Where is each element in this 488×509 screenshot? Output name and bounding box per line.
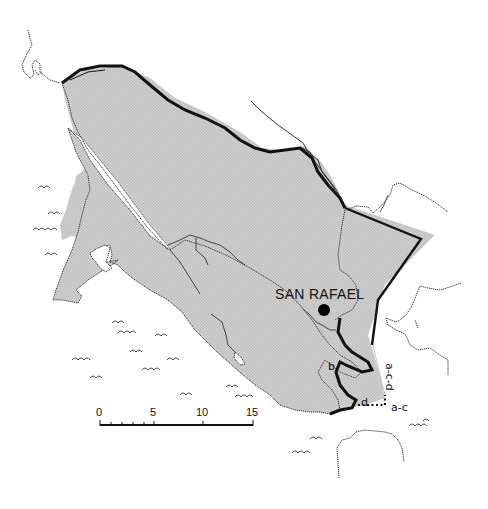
scale-label-15: 15 xyxy=(246,406,258,418)
sonoma-creek xyxy=(380,195,388,212)
map-canvas: SAN RAFAEL b d a-c-d a-c 0 5 10 15 xyxy=(0,0,488,509)
scale-label-0: 0 xyxy=(96,406,102,418)
scale-bar: 0 5 10 15 xyxy=(96,406,258,426)
sonoma-shoreline xyxy=(347,183,448,213)
scale-label-5: 5 xyxy=(150,406,156,418)
san-rafael-marker xyxy=(318,304,330,316)
scale-label-10: 10 xyxy=(196,406,208,418)
boundary-label-a-c-d: a-c-d xyxy=(383,363,396,391)
east-bay-shoreline-2 xyxy=(415,320,418,328)
east-bay-shoreline xyxy=(386,283,461,375)
san-francisco-shoreline xyxy=(337,430,404,478)
boundary-label-b: b xyxy=(328,360,335,373)
boundary-label-a-c: a-c xyxy=(391,401,408,414)
san-rafael-label: SAN RAFAEL xyxy=(275,286,364,302)
boundary-label-d: d xyxy=(361,396,368,409)
north-islet xyxy=(22,30,60,83)
